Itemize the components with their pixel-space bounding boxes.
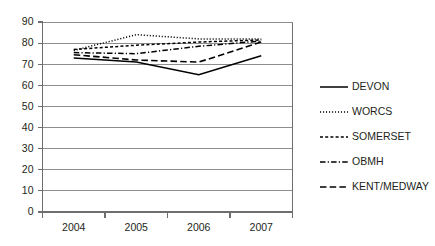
y-axis-tick-label: 30 xyxy=(22,142,34,154)
x-axis-label-group: 2004200520062007 xyxy=(62,221,273,233)
y-axis-label-group: 0102030405060708090 xyxy=(22,15,34,217)
y-axis-tick-label: 90 xyxy=(22,15,34,27)
line-chart: 0102030405060708090 2004200520062007 DEV… xyxy=(0,0,435,246)
x-axis-tick-group xyxy=(43,212,293,218)
legend-label: OBMH xyxy=(352,155,384,167)
y-axis-tick-group xyxy=(38,22,43,212)
series-group xyxy=(74,35,262,75)
x-axis-tick-label: 2007 xyxy=(250,221,274,233)
series-line-devon xyxy=(74,56,262,75)
y-axis-tick-label: 60 xyxy=(22,79,34,91)
chart-canvas: 0102030405060708090 2004200520062007 DEV… xyxy=(0,0,435,246)
legend-label: KENT/MEDWAY xyxy=(352,180,429,192)
y-axis-tick-label: 80 xyxy=(22,36,34,48)
series-line-somerset xyxy=(74,40,262,50)
y-axis-tick-label: 70 xyxy=(22,58,34,70)
y-axis-tick-label: 50 xyxy=(22,100,34,112)
chart-legend: DEVONWORCSSOMERSETOBMHKENT/MEDWAY xyxy=(320,80,429,192)
y-axis-tick-label: 0 xyxy=(28,205,34,217)
legend-label: DEVON xyxy=(352,80,389,92)
y-axis-tick-label: 10 xyxy=(22,184,34,196)
legend-label: WORCS xyxy=(352,105,392,117)
x-axis-tick-label: 2004 xyxy=(62,221,86,233)
x-axis-tick-label: 2005 xyxy=(125,221,149,233)
y-axis-tick-label: 40 xyxy=(22,121,34,133)
y-axis-tick-label: 20 xyxy=(22,163,34,175)
legend-label: SOMERSET xyxy=(352,130,412,142)
x-axis-tick-label: 2006 xyxy=(187,221,211,233)
